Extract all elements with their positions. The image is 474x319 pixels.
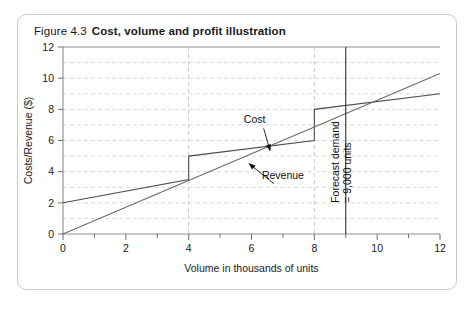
revenue-line xyxy=(63,73,440,234)
figure-card: Figure 4.3Cost, volume and profit illust… xyxy=(17,14,457,290)
x-tick-label: 0 xyxy=(60,242,66,254)
chart-svg: 024681012024681012 CostRevenueForecast d… xyxy=(18,43,456,289)
x-tick-label: 2 xyxy=(123,242,129,254)
revenue-arrowhead xyxy=(248,163,255,169)
axis-ticks xyxy=(58,47,440,240)
x-axis-title: Volume in thousands of units xyxy=(184,262,318,274)
annotations: CostRevenueForecast demand= 9,000 units xyxy=(244,113,353,202)
y-axis-title: Costs/Revenue ($) xyxy=(22,97,34,185)
figure-title: Cost, volume and profit illustration xyxy=(92,25,286,37)
axis-tick-labels: 024681012024681012 xyxy=(42,43,446,254)
figure-caption: Figure 4.3Cost, volume and profit illust… xyxy=(34,25,286,37)
x-tick-label: 12 xyxy=(434,242,446,254)
y-tick-label: 4 xyxy=(48,165,54,177)
y-tick-label: 2 xyxy=(48,197,54,209)
chart-plot: 024681012024681012 CostRevenueForecast d… xyxy=(18,43,456,289)
y-tick-label: 10 xyxy=(42,72,54,84)
y-tick-label: 0 xyxy=(48,228,54,240)
cost-label: Cost xyxy=(244,113,266,125)
cost-leader xyxy=(264,128,270,147)
y-tick-label: 12 xyxy=(42,43,54,53)
x-tick-label: 4 xyxy=(186,242,192,254)
horizontal-gridlines xyxy=(63,63,440,219)
x-tick-label: 6 xyxy=(249,242,255,254)
cost-line xyxy=(63,94,440,203)
y-tick-label: 8 xyxy=(48,103,54,115)
figure-number: Figure 4.3 xyxy=(34,25,87,37)
x-tick-label: 10 xyxy=(371,242,383,254)
x-tick-label: 8 xyxy=(311,242,317,254)
y-tick-label: 6 xyxy=(48,134,54,146)
forecast-demand-label-line1: Forecast demand xyxy=(329,121,341,203)
forecast-demand-label-line2: = 9,000 units xyxy=(341,142,353,202)
data-series xyxy=(63,73,440,234)
